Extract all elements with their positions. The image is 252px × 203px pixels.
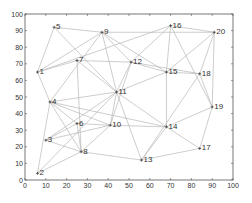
node-label: 6 bbox=[79, 119, 84, 128]
node-label: 8 bbox=[83, 147, 88, 156]
y-tick-label: 40 bbox=[15, 110, 23, 117]
node-label: 3 bbox=[48, 135, 53, 144]
node-16: 16 bbox=[169, 21, 182, 30]
node-5: 5 bbox=[53, 22, 62, 31]
y-tick-label: 0 bbox=[19, 177, 23, 184]
edge-line bbox=[50, 32, 102, 102]
node-label: 14 bbox=[168, 122, 177, 131]
y-tick-label: 10 bbox=[15, 160, 23, 167]
edges-layer bbox=[37, 26, 214, 174]
y-tick-label: 30 bbox=[15, 127, 23, 134]
node-label: 5 bbox=[56, 22, 61, 31]
x-tick-label: 60 bbox=[146, 182, 154, 189]
edge-line bbox=[200, 74, 212, 107]
edge-line bbox=[54, 27, 102, 32]
edge-line bbox=[50, 92, 117, 102]
node-label: 17 bbox=[202, 143, 211, 152]
node-label: 15 bbox=[168, 67, 177, 76]
y-tick-label: 80 bbox=[15, 44, 23, 51]
node-label: 19 bbox=[214, 102, 223, 111]
node-label: 11 bbox=[119, 87, 128, 96]
node-label: 10 bbox=[112, 120, 121, 129]
edge-line bbox=[77, 60, 131, 62]
edge-line bbox=[200, 107, 212, 149]
x-tick-label: 20 bbox=[63, 182, 71, 189]
node-label: 2 bbox=[39, 168, 44, 177]
y-tick-label: 100 bbox=[11, 11, 23, 18]
node-label: 4 bbox=[52, 97, 57, 106]
node-3: 3 bbox=[44, 135, 53, 144]
node-1: 1 bbox=[36, 67, 45, 76]
edge-line bbox=[81, 152, 141, 160]
node-20: 20 bbox=[213, 27, 226, 36]
x-tick-label: 30 bbox=[84, 182, 92, 189]
edge-line bbox=[37, 27, 54, 72]
x-tick-label: 100 bbox=[227, 182, 239, 189]
edge-line bbox=[37, 152, 81, 174]
node-label: 9 bbox=[104, 27, 109, 36]
node-label: 16 bbox=[173, 21, 182, 30]
node-label: 18 bbox=[202, 69, 211, 78]
node-label: 1 bbox=[39, 67, 44, 76]
y-tick-label: 50 bbox=[15, 94, 23, 101]
node-label: 7 bbox=[79, 55, 84, 64]
x-tick-label: 10 bbox=[42, 182, 50, 189]
network-scatter-plot: 1234567891011121314151617181920 01020304… bbox=[0, 0, 252, 203]
y-tick-label: 70 bbox=[15, 60, 23, 67]
edge-line bbox=[141, 74, 199, 160]
edge-line bbox=[102, 32, 117, 92]
x-tick-label: 80 bbox=[188, 182, 196, 189]
x-tick-label: 0 bbox=[23, 182, 27, 189]
node-11: 11 bbox=[115, 87, 127, 96]
edge-line bbox=[54, 27, 116, 92]
x-tick-label: 70 bbox=[167, 182, 175, 189]
node-label: 12 bbox=[133, 57, 142, 66]
x-tick-label: 50 bbox=[125, 182, 133, 189]
node-label: 20 bbox=[216, 27, 225, 36]
x-tick-label: 90 bbox=[208, 182, 216, 189]
node-2: 2 bbox=[36, 168, 45, 177]
edge-line bbox=[37, 72, 49, 102]
node-9: 9 bbox=[100, 27, 109, 36]
edge-line bbox=[77, 60, 117, 92]
y-tick-label: 20 bbox=[15, 143, 23, 150]
nodes-layer: 1234567891011121314151617181920 bbox=[36, 21, 226, 178]
x-tick-label: 40 bbox=[104, 182, 112, 189]
edge-line bbox=[212, 32, 214, 107]
y-tick-label: 90 bbox=[15, 27, 23, 34]
node-6: 6 bbox=[76, 119, 85, 128]
edge-line bbox=[37, 32, 101, 72]
node-label: 13 bbox=[143, 155, 152, 164]
y-tick-label: 60 bbox=[15, 77, 23, 84]
